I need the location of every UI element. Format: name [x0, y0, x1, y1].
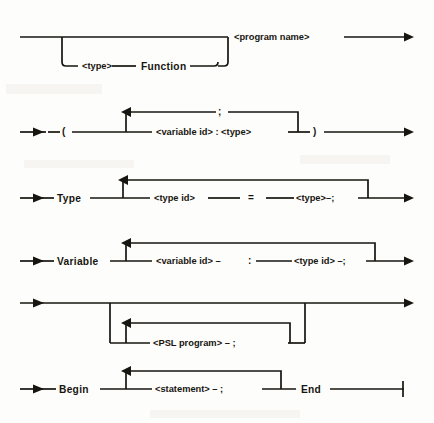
label-variable-type-id: <type id> –;	[294, 256, 346, 266]
row-statement-block: Begin <statement> – ; End	[20, 366, 404, 397]
row3-exit-arrowhead	[404, 194, 414, 203]
label-open-paren: (	[62, 126, 66, 137]
row-program-header: <type> Function <program name>	[20, 32, 414, 71]
label-program-name: <program name>	[234, 32, 310, 42]
row2-exit-arrowhead	[404, 128, 414, 137]
label-equals: =	[248, 192, 254, 203]
railroad-diagram-canvas: <type> Function <program name> ( <variab…	[0, 0, 434, 423]
label-statement: <statement> – ;	[155, 384, 223, 394]
row-variable-declaration: Variable <variable id> – : <type id> –;	[20, 238, 414, 267]
label-type: <type>	[82, 61, 113, 71]
row-type-declaration: Type <type id> = <type>–;	[20, 175, 414, 204]
row-nested-program: <PSL program> – ;	[20, 299, 414, 349]
row5-exit-arrowhead	[404, 299, 414, 308]
label-close-paren: )	[313, 126, 316, 137]
row4-exit-arrowhead	[404, 257, 414, 266]
row6-entry-arrowhead	[33, 385, 44, 394]
label-type-value: <type>–;	[296, 193, 334, 203]
row2-loop-top-right	[228, 112, 298, 126]
label-variable-id-type: <variable id> : <type>	[156, 127, 252, 137]
label-function-keyword: Function	[141, 61, 186, 72]
row2-entry-arrowhead	[33, 128, 44, 137]
label-end-keyword: End	[301, 384, 321, 395]
row3-entry-arrowhead	[33, 194, 44, 203]
row-parameter-list: ( <variable id> : <type> ; )	[20, 106, 414, 138]
label-type-id: <type id>	[154, 193, 195, 203]
label-variable-id: <variable id> –	[156, 256, 221, 266]
label-loop-semicolon: ;	[218, 106, 221, 117]
row1-exit-arrowhead	[404, 33, 414, 42]
row4-entry-arrowhead	[33, 257, 44, 266]
label-begin-keyword: Begin	[59, 384, 89, 395]
row1-branch-right-riser	[218, 37, 228, 66]
railroad-diagram-root: <type> Function <program name> ( <variab…	[0, 0, 434, 423]
row1-branch-right-rise-seg	[190, 62, 218, 66]
label-type-keyword: Type	[57, 193, 81, 204]
label-colon: :	[248, 255, 251, 266]
label-psl-program: <PSL program> – ;	[153, 338, 236, 348]
row5-entry-arrowhead	[33, 299, 44, 308]
label-variable-keyword: Variable	[57, 256, 99, 267]
row1-branch-left-drop	[62, 37, 78, 66]
